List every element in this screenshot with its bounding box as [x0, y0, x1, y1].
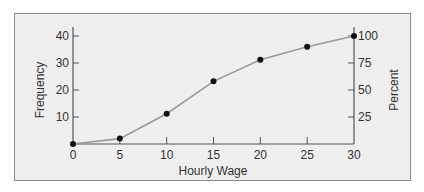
x-tick-label: 30: [347, 148, 361, 162]
y-axis-left-title: Frequency: [33, 62, 47, 119]
y-right-tick-label: 25: [358, 110, 372, 124]
y-right-tick-label: 50: [358, 83, 372, 97]
data-points: [70, 33, 357, 147]
y-left-tick-label: 30: [56, 56, 70, 70]
data-point-marker: [351, 33, 357, 39]
x-tick-label: 5: [116, 148, 123, 162]
y-axis-right-title: Percent: [387, 69, 401, 111]
y-axis-right-ticks: 255075100: [348, 29, 378, 124]
x-tick-label: 0: [70, 148, 77, 162]
data-point-marker: [164, 111, 170, 117]
data-point-marker: [211, 78, 217, 84]
x-tick-label: 25: [300, 148, 314, 162]
data-point-marker: [304, 44, 310, 50]
y-right-tick-label: 100: [358, 29, 378, 43]
y-left-tick-label: 40: [56, 29, 70, 43]
x-tick-label: 20: [254, 148, 268, 162]
data-point-marker: [117, 136, 123, 142]
y-left-tick-label: 10: [56, 110, 70, 124]
x-tick-label: 10: [160, 148, 174, 162]
y-axis-left-ticks: 10203040: [56, 29, 79, 124]
ogive-line: [73, 36, 354, 144]
ogive-chart: 051015202530 10203040 255075100 Hourly W…: [0, 0, 424, 192]
x-axis-title: Hourly Wage: [179, 164, 248, 178]
data-point-marker: [70, 141, 76, 147]
y-right-tick-label: 75: [358, 56, 372, 70]
x-tick-label: 15: [207, 148, 221, 162]
data-point-marker: [257, 57, 263, 63]
axes: [73, 27, 354, 144]
x-axis-ticks: 051015202530: [70, 137, 361, 162]
y-left-tick-label: 20: [56, 83, 70, 97]
